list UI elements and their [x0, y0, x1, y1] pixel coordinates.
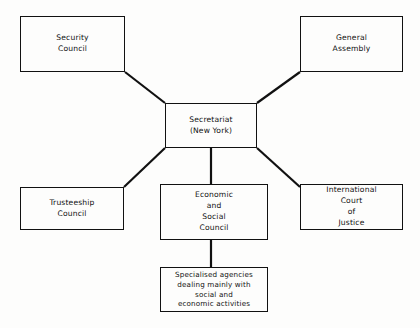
- node-label: Trusteeship Council: [46, 198, 97, 220]
- node-trusteeship-council[interactable]: Trusteeship Council: [20, 187, 124, 230]
- node-general-assembly[interactable]: General Assembly: [300, 16, 403, 72]
- connector-secretariat-to-international-court: [257, 148, 300, 187]
- connector-security-council-to-secretariat: [125, 72, 165, 103]
- node-label: Security Council: [53, 33, 91, 55]
- node-specialised-agencies[interactable]: Specialised agencies dealing mainly with…: [160, 267, 268, 312]
- diagram-canvas: Security Council General Assembly Secret…: [0, 0, 420, 328]
- connector-general-assembly-to-secretariat: [257, 72, 300, 103]
- node-secretariat[interactable]: Secretariat (New York): [165, 103, 257, 148]
- node-international-court-of-justice[interactable]: International Court of Justice: [300, 184, 403, 230]
- node-label: Economic and Social Council: [192, 190, 236, 233]
- connector-secretariat-to-trusteeship-council: [124, 148, 165, 187]
- node-label: International Court of Justice: [323, 185, 379, 228]
- node-economic-and-social-council[interactable]: Economic and Social Council: [160, 184, 268, 240]
- node-label: General Assembly: [330, 33, 374, 55]
- node-label: Specialised agencies dealing mainly with…: [172, 270, 256, 310]
- node-security-council[interactable]: Security Council: [20, 16, 125, 72]
- node-label: Secretariat (New York): [186, 115, 235, 137]
